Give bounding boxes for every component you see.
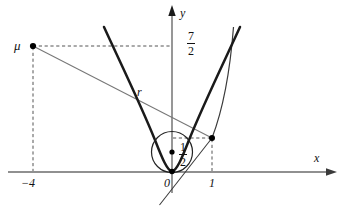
plot-points [30, 43, 215, 174]
x-tick-one: 1 [209, 177, 215, 189]
point-circle-center [169, 149, 174, 154]
x-axis-label: x [314, 152, 319, 164]
circle-center-one-half: 1 2 [179, 141, 187, 168]
y-axis-label: y [180, 7, 185, 19]
fraction-denominator: 2 [187, 45, 195, 57]
radius-label: r [137, 86, 142, 98]
fraction-numerator: 1 [179, 141, 187, 153]
math-diagram: μ r y x −4 1 0 7 2 1 2 [0, 0, 345, 215]
origin-label: 0 [164, 177, 170, 189]
x-tick-minus-four: −4 [21, 177, 35, 189]
y-axis [168, 5, 175, 193]
point-mu [30, 43, 36, 49]
point-tangency [209, 135, 215, 141]
mu-label: μ [14, 39, 21, 52]
fraction-numerator: 7 [187, 30, 195, 42]
point-origin [169, 169, 175, 175]
fraction-denominator: 2 [179, 156, 187, 168]
diagram-canvas [0, 0, 345, 215]
y-value-seven-halves: 7 2 [187, 30, 195, 57]
radius-segment [33, 46, 212, 138]
